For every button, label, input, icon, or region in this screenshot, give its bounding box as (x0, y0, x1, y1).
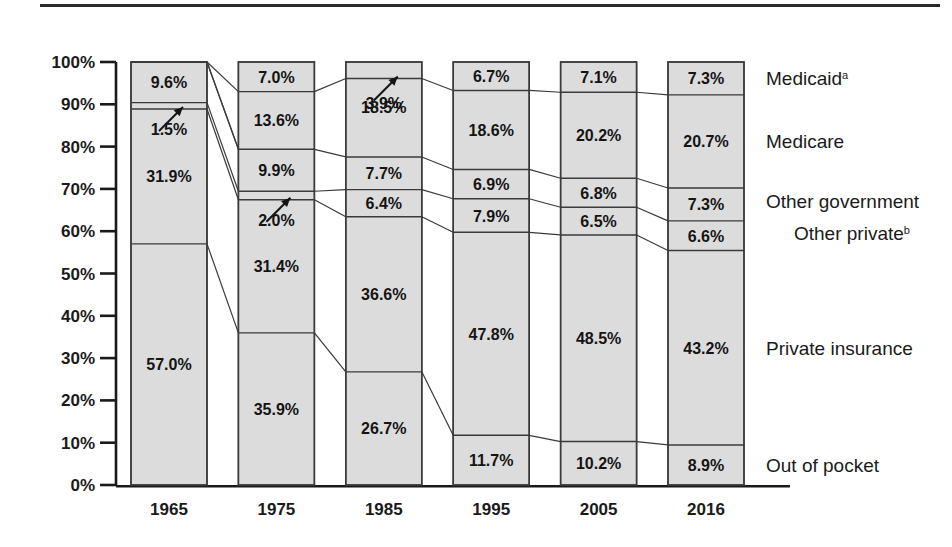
connector-line (314, 190, 345, 192)
x-axis-label: 1965 (150, 500, 188, 519)
connector-line (637, 178, 668, 188)
connector-line (529, 199, 560, 208)
connector-line (314, 79, 345, 92)
segment-value-label: 31.9% (146, 168, 191, 185)
connector-line (207, 244, 238, 333)
y-axis-tick-label: 20% (61, 391, 95, 410)
segment-value-label: 43.2% (683, 340, 728, 357)
series-label-superscript: b (904, 224, 910, 236)
segment-value-label: 1.5% (151, 121, 187, 138)
y-axis-tick-label: 0% (70, 476, 95, 495)
series-labels: MedicaidaMedicareOther governmentOther p… (766, 68, 920, 476)
segment-value-label: 7.3% (688, 196, 724, 213)
segment-value-label: 31.4% (254, 258, 299, 275)
segment-value-label: 47.8% (469, 326, 514, 343)
segment-value-label: 6.8% (580, 185, 616, 202)
y-axis-tick-label: 90% (61, 95, 95, 114)
bar-body (668, 62, 744, 485)
connector-line (314, 149, 345, 157)
connector-line (314, 333, 345, 372)
series-label-other-private: Other privateb (794, 223, 910, 244)
x-axis-label: 1985 (365, 500, 403, 519)
bar-2016 (668, 62, 744, 485)
connector-line (314, 200, 345, 217)
stacked-bar-chart: 0%10%20%30%40%50%60%70%80%90%100%9.6%1.5… (0, 0, 952, 547)
connector-line (529, 232, 560, 235)
segment-value-label: 6.7% (473, 68, 509, 85)
y-axis-tick-label: 70% (61, 180, 95, 199)
segment-value-label: 6.5% (580, 213, 616, 230)
series-label-private-insurance: Private insurance (766, 338, 913, 359)
segment-value-label: 2.0% (258, 212, 294, 229)
chart-canvas: 0%10%20%30%40%50%60%70%80%90%100%9.6%1.5… (0, 0, 952, 547)
connector-line (637, 92, 668, 95)
segment-value-label: 18.5% (361, 99, 406, 116)
series-label-medicaid: Medicaida (766, 68, 849, 89)
segment-value-labels: 9.6%1.5%31.9%57.0%7.0%13.6%9.9%2.0%31.4%… (146, 68, 728, 474)
segment-value-label: 10.2% (576, 455, 621, 472)
connector-line (207, 109, 238, 200)
segment-value-label: 7.0% (258, 69, 294, 86)
segment-value-label: 6.6% (688, 228, 724, 245)
connector-line (529, 435, 560, 441)
connector-line (637, 442, 668, 445)
y-axis-tick-label: 30% (61, 349, 95, 368)
segment-value-label: 6.4% (366, 195, 402, 212)
x-axis-labels: 196519751985199520052016 (150, 500, 725, 519)
segment-value-label: 20.7% (683, 133, 728, 150)
connector-line (637, 207, 668, 221)
x-axis-label: 2005 (580, 500, 618, 519)
segment-value-label: 7.7% (366, 165, 402, 182)
connector-line (207, 103, 238, 192)
series-label-medicare: Medicare (766, 131, 844, 152)
y-axis-tick-label: 40% (61, 307, 95, 326)
segment-value-label: 8.9% (688, 457, 724, 474)
segment-value-label: 18.6% (469, 122, 514, 139)
segment-value-label: 7.1% (580, 69, 616, 86)
segment-value-label: 9.9% (258, 162, 294, 179)
x-axis-label: 1975 (257, 500, 295, 519)
x-axis-label: 2016 (687, 500, 725, 519)
connector-line (422, 190, 453, 199)
y-axis-tick-label: 80% (61, 138, 95, 157)
segment-value-label: 36.6% (361, 286, 406, 303)
connector-line (207, 62, 238, 149)
connector-line (422, 372, 453, 435)
x-axis-label: 1995 (472, 500, 510, 519)
series-label-out-of-pocket: Out of pocket (766, 455, 880, 476)
segment-value-label: 7.3% (688, 70, 724, 87)
segment-value-label: 11.7% (469, 452, 513, 469)
bar-body (561, 62, 637, 485)
segment-value-label: 6.9% (473, 176, 509, 193)
bars (131, 62, 744, 485)
bar-2005 (561, 62, 637, 485)
connector-line (529, 90, 560, 92)
segment-value-label: 57.0% (146, 356, 191, 373)
y-axis-tick-label: 10% (61, 434, 95, 453)
y-axis-tick-label: 50% (61, 265, 95, 284)
segment-value-label: 9.6% (151, 74, 187, 91)
connector-line (422, 79, 453, 91)
segment-value-label: 20.2% (576, 127, 621, 144)
series-label-superscript: a (842, 69, 849, 81)
y-axis-tick-label: 100% (52, 53, 95, 72)
y-axis-tick-label: 60% (61, 222, 95, 241)
connector-line (529, 169, 560, 178)
connector-line (637, 235, 668, 251)
segment-value-label: 35.9% (254, 401, 299, 418)
series-label-other-government: Other government (766, 191, 920, 212)
connector-line (422, 217, 453, 233)
segment-value-label: 13.6% (254, 112, 299, 129)
connector-line (422, 157, 453, 170)
segment-value-label: 7.9% (473, 208, 509, 225)
segment-value-label: 26.7% (361, 420, 406, 437)
segment-value-label: 48.5% (576, 330, 621, 347)
